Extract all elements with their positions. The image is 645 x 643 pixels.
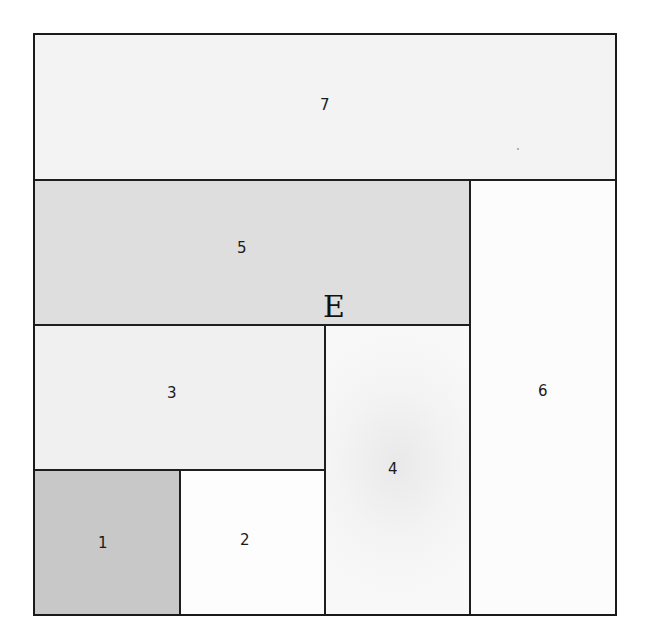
region-3-label: 3 [167, 386, 177, 401]
divider-h-1 [35, 179, 615, 181]
point-label-e: E [323, 292, 345, 322]
region-3: 3 [35, 325, 325, 470]
region-1-label: 1 [98, 536, 108, 551]
region-5: 5 [35, 180, 470, 325]
region-4-label: 4 [388, 462, 398, 477]
divider-v-1 [469, 180, 471, 614]
region-2-label: 2 [240, 533, 250, 548]
speck-mark [517, 148, 519, 150]
region-5-label: 5 [237, 241, 247, 256]
region-1: 1 [35, 470, 180, 614]
region-6: 6 [470, 180, 615, 614]
divider-h-2 [35, 324, 470, 326]
region-7: 7 [35, 35, 615, 180]
region-4: 4 [325, 325, 470, 614]
divider-v-3 [179, 470, 181, 614]
region-2: 2 [180, 470, 325, 614]
divider-v-2 [324, 325, 326, 614]
region-7-label: 7 [320, 98, 330, 113]
diagram-frame: 7 5 6 3 4 1 2 E [33, 33, 617, 616]
region-6-label: 6 [538, 384, 548, 399]
